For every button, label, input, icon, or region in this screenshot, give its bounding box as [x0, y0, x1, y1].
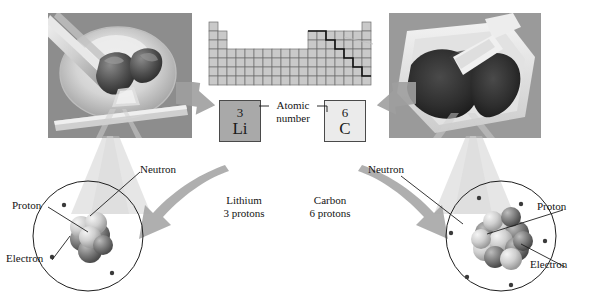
lithium-protons: 3 protons — [213, 207, 275, 220]
lithium-neutron-label: Neutron — [140, 163, 176, 176]
carbon-neutron-label: Neutron — [368, 163, 404, 176]
carbon-name: Carbon — [299, 194, 361, 207]
lithium-proton-label: Proton — [12, 199, 41, 212]
atomic-number-label: Atomic number — [264, 99, 322, 124]
figure-root: 3 Li 6 C Atomic number — [0, 0, 589, 298]
carbon-electron-label: Electron — [530, 258, 567, 271]
lithium-name: Lithium — [213, 194, 275, 207]
atomic-number-label-line1: Atomic — [264, 99, 322, 112]
periodic-table — [205, 20, 380, 90]
carbon-symbol: C — [339, 120, 350, 137]
carbon-proton-label: Proton — [537, 200, 566, 213]
carbon-protons: 6 protons — [299, 207, 361, 220]
lithium-caption: Lithium 3 protons — [213, 194, 275, 219]
lithium-symbol: Li — [232, 120, 247, 137]
lithium-photo — [48, 13, 192, 138]
lithium-electron-label: Electron — [6, 252, 43, 265]
carbon-caption: Carbon 6 protons — [299, 194, 361, 219]
lithium-atomic-number: 3 — [237, 106, 244, 119]
atomic-number-label-line2: number — [264, 112, 322, 125]
carbon-atomic-number: 6 — [342, 106, 349, 119]
